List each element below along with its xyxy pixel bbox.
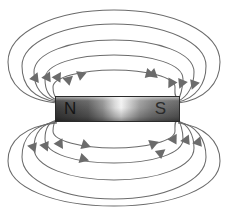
field-line-path bbox=[53, 119, 178, 148]
field-line-path bbox=[53, 70, 178, 99]
south-pole-label: S bbox=[155, 100, 166, 117]
arrow-down-right-icon bbox=[27, 142, 40, 155]
field-loop-bottom-2 bbox=[45, 120, 183, 166]
field-line-path bbox=[34, 121, 194, 180]
field-loop-bottom-3 bbox=[34, 121, 194, 180]
arrow-down-right-icon bbox=[39, 141, 52, 154]
arrow-up-right-icon bbox=[148, 137, 160, 150]
arrow-down-right-icon bbox=[175, 78, 188, 91]
field-loop-bottom-1 bbox=[53, 119, 178, 152]
arrow-right-icon bbox=[80, 139, 92, 152]
arrow-right-icon bbox=[79, 153, 91, 166]
field-line-path bbox=[22, 24, 206, 102]
north-pole-label: N bbox=[64, 100, 76, 117]
arrow-down-right-icon bbox=[54, 138, 68, 151]
field-loop-bottom-4 bbox=[22, 122, 206, 199]
bar-magnet: N S bbox=[55, 96, 180, 122]
arrow-up-right-icon bbox=[155, 145, 169, 159]
field-loop-top-4 bbox=[45, 55, 183, 100]
field-loop-top-5 bbox=[53, 68, 178, 99]
field-loop-top-2 bbox=[22, 24, 206, 102]
magnetic-field-diagram: N S bbox=[0, 0, 228, 215]
field-line-path bbox=[22, 122, 206, 199]
arrow-up-left-icon bbox=[52, 69, 66, 82]
arrow-up-left-icon bbox=[29, 70, 42, 83]
arrow-up-left-icon bbox=[76, 68, 89, 81]
